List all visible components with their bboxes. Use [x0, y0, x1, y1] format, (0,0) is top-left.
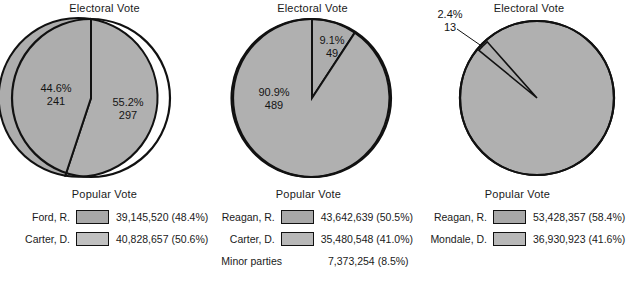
legend-label: Ford, R. [0, 211, 76, 223]
slice-label-percent-ford: 44.6% [40, 82, 71, 94]
legend-1: Popular Vote Ford, R. 39,145,520 (48.4%)… [0, 188, 209, 246]
legend-value: 39,145,520 (48.4%) [109, 211, 208, 223]
legend-label: Minor parties [204, 255, 288, 267]
legend-label: Reagan, R. [204, 211, 281, 223]
legend-row: Carter, D. 40,828,657 (50.6%) [0, 231, 209, 246]
legend-title-3: Popular Vote [409, 188, 626, 200]
legend-2: Popular Vote Reagan, R. 43,642,639 (50.5… [204, 188, 413, 268]
legend-swatch [76, 232, 109, 246]
legend-row: Reagan, R. 53,428,357 (58.4%) [409, 209, 626, 224]
electoral-vote-figure: Electoral Vote 44.6% 241 55.2% 297 Popul… [0, 0, 626, 286]
legend-row: Mondale, D. 36,930,923 (41.6%) [409, 231, 626, 246]
slice-label-percent-reagan80: 90.9% [258, 86, 289, 98]
legend-swatch-empty [288, 254, 321, 268]
legend-title-1: Popular Vote [0, 188, 209, 200]
legend-value: 40,828,657 (50.6%) [109, 233, 208, 245]
legend-value: 35,480,548 (41.0%) [314, 233, 413, 245]
pie-chart-2: 9.1% 49 90.9% 489 [208, 0, 417, 190]
legend-value: 43,642,639 (50.5%) [314, 211, 413, 223]
legend-row: Ford, R. 39,145,520 (48.4%) [0, 209, 209, 224]
legend-swatch [281, 232, 314, 246]
legend-label: Carter, D. [204, 233, 281, 245]
legend-row: Carter, D. 35,480,548 (41.0%) [204, 231, 413, 246]
legend-value: 7,373,254 (8.5%) [321, 255, 409, 267]
leader-line-mondale [457, 29, 483, 47]
slice-label-count-ford: 241 [47, 95, 65, 107]
slice-label-percent-mondale: 2.4% [437, 8, 462, 20]
slice-label-count-carter80: 49 [326, 47, 338, 59]
chart-panel-2: Electoral Vote 9.1% 49 90.9% 489 Popular… [208, 0, 417, 286]
pie-chart-3: 2.4% 13 [417, 0, 626, 190]
legend-swatch [76, 210, 109, 224]
legend-title-2: Popular Vote [204, 188, 413, 200]
legend-value: 36,930,923 (41.6%) [526, 233, 625, 245]
legend-swatch [281, 210, 314, 224]
slice-label-count-mondale: 13 [444, 21, 456, 33]
legend-swatch [493, 232, 526, 246]
chart-panel-3: Electoral Vote 2.4% 13 Popular Vote Reag… [417, 0, 626, 286]
pie-chart-1: 44.6% 241 55.2% 297 [0, 0, 209, 190]
legend-3: Popular Vote Reagan, R. 53,428,357 (58.4… [409, 188, 626, 246]
legend-label: Mondale, D. [409, 233, 493, 245]
legend-label: Reagan, R. [409, 211, 493, 223]
legend-row-minor-parties: Minor parties 7,373,254 (8.5%) [204, 253, 413, 268]
slice-label-percent-carter80: 9.1% [319, 34, 344, 46]
chart-panel-1: Electoral Vote 44.6% 241 55.2% 297 Popul… [0, 0, 209, 286]
legend-row: Reagan, R. 43,642,639 (50.5%) [204, 209, 413, 224]
slice-label-count-carter: 297 [119, 109, 137, 121]
legend-label: Carter, D. [0, 233, 76, 245]
legend-value: 53,428,357 (58.4%) [526, 211, 625, 223]
slice-label-percent-carter: 55.2% [112, 96, 143, 108]
slice-label-count-reagan80: 489 [265, 99, 283, 111]
legend-swatch [493, 210, 526, 224]
